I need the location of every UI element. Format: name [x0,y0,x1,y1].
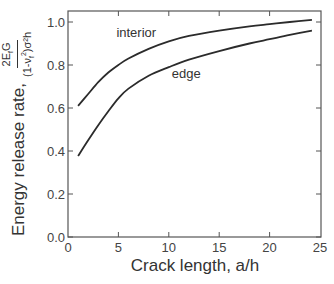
x-tick-label: 5 [115,240,122,255]
y-axis-label-text: Energy release rate, [9,83,29,236]
x-tick-label: 0 [64,240,71,255]
y-tick-label: 0.0 [47,230,65,245]
y-tick-label: 0.2 [47,187,65,202]
plot-border [68,11,321,237]
plot-frame [68,11,321,237]
curve-interior [78,20,312,106]
data-curves [78,20,312,156]
chart-canvas: 05101520250.00.20.40.60.81.0 interioredg… [0,0,334,284]
y-axis-fraction: 2EfG (1-νf2)σ²h [1,30,36,79]
label-interior: interior [116,25,156,40]
x-tick-label: 15 [212,240,226,255]
fraction-denominator: (1-νf2)σ²h [18,30,37,79]
x-tick-label: 25 [313,240,327,255]
curve-labels: interioredge [116,25,200,81]
y-tick-label: 1.0 [47,15,65,30]
y-tick-label: 0.8 [47,58,65,73]
y-axis-label: Energy release rate, 2EfG (1-νf2)σ²h [4,18,34,248]
fraction-numerator: 2EfG [1,40,17,68]
curve-edge [78,31,312,156]
label-edge: edge [172,66,201,81]
axis-ticks: 05101520250.00.20.40.60.81.0 [47,11,327,255]
x-axis-label: Crack length, a/h [69,256,321,276]
x-tick-label: 20 [262,240,276,255]
x-tick-label: 10 [162,240,176,255]
y-tick-label: 0.6 [47,101,65,116]
y-tick-label: 0.4 [47,144,65,159]
